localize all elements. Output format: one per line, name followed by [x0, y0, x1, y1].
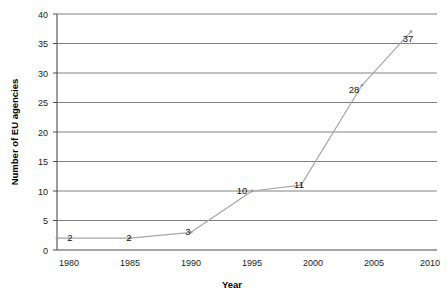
y-tick-label-40: 40 — [38, 10, 48, 20]
data-label-2-1980: 2 — [67, 232, 72, 243]
data-label-10-1995: 10 — [237, 185, 248, 196]
data-point-labels: 2 2 3 10 11 28 37 — [67, 33, 413, 243]
line-chart: 40 35 30 25 20 15 10 5 0 1980 1985 1990 … — [0, 0, 447, 302]
data-series-line — [57, 32, 411, 239]
y-tick-label-15: 15 — [38, 157, 48, 167]
y-tick-label-35: 35 — [38, 39, 48, 49]
x-tick-label-1985: 1985 — [120, 258, 140, 268]
data-point-1980 — [56, 237, 59, 240]
data-label-37-2008: 37 — [403, 33, 414, 44]
y-tick-labels: 40 35 30 25 20 15 10 5 0 — [38, 10, 48, 256]
y-tick-label-10: 10 — [38, 187, 48, 197]
x-tick-label-2010: 2010 — [420, 258, 440, 268]
data-label-11-1999: 11 — [294, 179, 304, 190]
y-tick-label-20: 20 — [38, 128, 48, 138]
x-tick-label-1990: 1990 — [181, 258, 201, 268]
y-tick-label-30: 30 — [38, 69, 48, 79]
y-tick-label-0: 0 — [43, 246, 48, 256]
y-tick-label-5: 5 — [43, 216, 48, 226]
data-point-2004 — [361, 84, 364, 87]
data-label-2-1985: 2 — [126, 232, 131, 243]
x-tick-labels: 1980 1985 1990 1995 2000 2005 2010 — [59, 258, 440, 268]
x-tick-label-1980: 1980 — [59, 258, 79, 268]
y-tick-marks — [53, 14, 57, 250]
data-point-markers — [56, 30, 413, 239]
data-label-3-1990: 3 — [185, 226, 190, 237]
y-axis-title: Number of EU agencies — [9, 79, 20, 186]
x-tick-label-2005: 2005 — [364, 258, 384, 268]
chart-canvas: 40 35 30 25 20 15 10 5 0 1980 1985 1990 … — [0, 0, 447, 302]
x-tick-label-2000: 2000 — [303, 258, 323, 268]
data-label-28-2004: 28 — [349, 84, 360, 95]
x-tick-label-1995: 1995 — [242, 258, 262, 268]
data-point-1995 — [251, 190, 254, 193]
x-axis-title: Year — [222, 279, 242, 290]
y-tick-label-25: 25 — [38, 98, 48, 108]
